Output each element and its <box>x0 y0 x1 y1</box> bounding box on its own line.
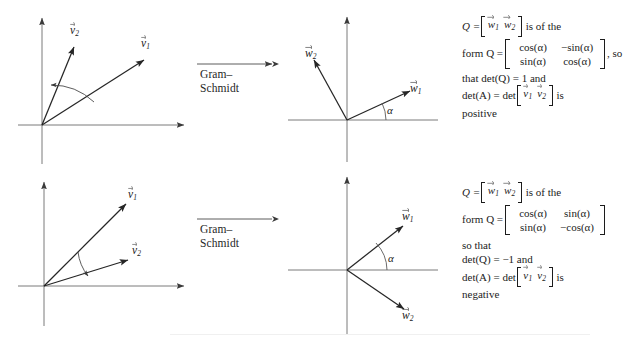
diagram-top-before: v1 v2 <box>18 12 198 172</box>
diagram-bottom-after: w1 w2 α <box>288 174 438 342</box>
vector-w2 <box>314 60 347 120</box>
note-top-line2: form Q = cos(α) −sin(α) sin(α) cos(α) , … <box>462 39 622 69</box>
angle-label-alpha: α <box>388 252 394 264</box>
vector-label-v2: v2 <box>132 244 141 258</box>
vector-label-v1: v1 <box>141 37 150 51</box>
vector-v2 <box>42 47 74 125</box>
note-bottom-line1-suffix: is of the <box>526 185 561 200</box>
note-bottom-deta-prefix: det(A) = det <box>462 270 516 285</box>
matrix-cell-r1c2: sin(α) <box>555 206 599 220</box>
bracket-v1-v2: v1 v2 <box>517 267 553 288</box>
note-bottom-line2: form Q = cos(α) sin(α) sin(α) −cos(α) <box>462 205 607 235</box>
note-bottom-line5: negative <box>462 287 607 302</box>
transform-label-line1: Gram– <box>200 68 239 82</box>
vector-label-w1: w1 <box>410 82 422 96</box>
vector-w1 <box>347 226 403 270</box>
note-top-line4: det(A) = det v1 v2 is <box>462 85 622 106</box>
diagram-bottom-before: v1 v2 <box>18 176 198 336</box>
note-top-form-label: form Q = <box>462 46 503 61</box>
page-rule <box>170 334 590 335</box>
note-top-line5: positive <box>462 106 622 121</box>
matrix-cell-r2c2: −cos(α) <box>555 220 599 234</box>
matrix-cell-r1c2: −sin(α) <box>555 40 599 54</box>
transform-arrow-bottom: Gram– Schmidt <box>196 211 282 229</box>
vector-v1 <box>42 60 144 125</box>
q-symbol: Q = <box>462 19 480 34</box>
matrix-q-top: cos(α) −sin(α) sin(α) cos(α) <box>505 39 605 69</box>
note-bottom-line3: det(Q) = −1 and <box>462 252 607 267</box>
vector-w1 <box>347 91 410 120</box>
note-bottom-form-label: form Q = <box>462 212 503 227</box>
bracket-w1-w2: w1 w2 <box>481 16 522 37</box>
transform-label-bottom: Gram– Schmidt <box>200 223 239 250</box>
bracket-v1-v2: v1 v2 <box>517 85 553 106</box>
vector-w2 <box>347 270 404 309</box>
angle-label-alpha: α <box>387 104 393 116</box>
diagram-top-after: w1 w2 α <box>288 12 438 162</box>
note-top-line4-suffix: is <box>557 88 564 103</box>
note-top: Q = w1 w2 is of the form Q = cos(α) −sin… <box>462 16 622 120</box>
matrix-cell-r1c1: cos(α) <box>511 40 555 54</box>
note-bottom-line3a: so that <box>462 238 607 253</box>
bracket-w1-w2: w1 w2 <box>481 182 522 203</box>
note-top-line1-suffix: is of the <box>526 19 561 34</box>
transform-label-line1: Gram– <box>200 223 239 237</box>
matrix-q-bottom: cos(α) sin(α) sin(α) −cos(α) <box>505 205 605 235</box>
vector-label-v2: v2 <box>70 24 79 38</box>
vector-label-w2: w2 <box>402 309 414 323</box>
note-top-line2-suffix: , so <box>607 46 622 61</box>
matrix-cell-r2c2: cos(α) <box>555 54 599 68</box>
axes-and-vectors-bottom-after <box>288 174 438 342</box>
note-top-line1: Q = w1 w2 is of the <box>462 16 622 37</box>
note-bottom-line4: det(A) = det v1 v2 is <box>462 267 607 288</box>
transform-label-line2: Schmidt <box>200 82 239 96</box>
note-bottom: Q = w1 w2 is of the form Q = cos(α) sin(… <box>462 182 607 302</box>
vector-label-v1: v1 <box>128 188 137 202</box>
angle-arc-alpha <box>382 103 386 120</box>
transform-label-line2: Schmidt <box>200 237 239 251</box>
note-top-deta-prefix: det(A) = det <box>462 88 516 103</box>
axes-and-vectors-top-before <box>18 12 198 172</box>
transform-label-top: Gram– Schmidt <box>200 68 239 95</box>
vector-label-w2: w2 <box>305 47 317 61</box>
matrix-cell-r1c1: cos(α) <box>511 206 555 220</box>
note-bottom-line1: Q = w1 w2 is of the <box>462 182 607 203</box>
matrix-cell-r2c1: sin(α) <box>511 220 555 234</box>
figure-canvas: v1 v2 Gram– Schmidt w1 <box>0 0 631 346</box>
transform-arrow-top: Gram– Schmidt <box>196 56 282 74</box>
axes-and-vectors-bottom-before <box>18 176 198 336</box>
note-top-line3: that det(Q) = 1 and <box>462 71 622 86</box>
vector-label-w1: w1 <box>402 210 414 224</box>
angle-arc-alpha <box>376 243 387 270</box>
matrix-cell-r2c1: sin(α) <box>511 54 555 68</box>
note-bottom-line4-suffix: is <box>557 270 564 285</box>
q-symbol: Q = <box>462 185 480 200</box>
